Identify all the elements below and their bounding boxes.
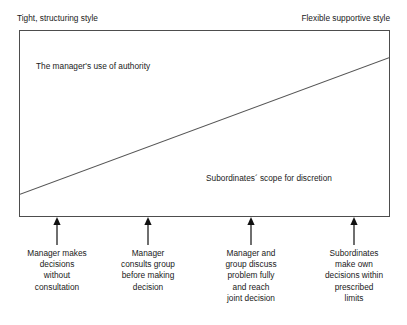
marker-caption-line: group discuss [203,259,299,270]
marker-caption-line: and reach [203,282,299,293]
top-left-style-label: Tight, structuring style [17,13,98,23]
marker-caption: Manager makesdecisionswithoutconsultatio… [9,248,105,293]
marker-caption-line: Subordinates [306,248,402,259]
marker-caption-line: decisions [9,259,105,270]
marker-caption-line: without [9,270,105,281]
marker-caption-line: make own [306,259,402,270]
marker-caption-line: before making [100,270,196,281]
continuum-box: The manager's use of authority Subordina… [19,30,390,217]
marker-caption-line: limits [306,293,402,304]
marker-caption-line: decision [100,282,196,293]
top-right-style-label: Flexible supportive style [301,13,390,23]
marker-caption-line: consults group [100,259,196,270]
marker-caption-line: prescribed [306,282,402,293]
up-arrow-icon [144,217,152,245]
marker-caption-line: Manager [100,248,196,259]
diagonal-divider-icon [20,31,389,216]
marker-caption-line: problem fully [203,270,299,281]
marker-caption: Manager andgroup discussproblem fullyand… [203,248,299,304]
up-arrow-icon [247,217,255,245]
up-arrow-icon [350,217,358,245]
marker-caption: Subordinatesmake owndecisions withinpres… [306,248,402,304]
manager-authority-label: The manager's use of authority [36,61,150,71]
up-arrow-icon [53,217,61,245]
marker-caption-line: Manager and [203,248,299,259]
subordinate-discretion-label: Subordinates´ scope for discretion [206,173,332,183]
marker-caption-line: consultation [9,282,105,293]
marker-caption-line: joint decision [203,293,299,304]
marker-caption: Managerconsults groupbefore makingdecisi… [100,248,196,293]
marker-caption-line: Manager makes [9,248,105,259]
marker-caption-line: decisions within [306,270,402,281]
authority-continuum-diagram: Tight, structuring style Flexible suppor… [0,0,407,325]
